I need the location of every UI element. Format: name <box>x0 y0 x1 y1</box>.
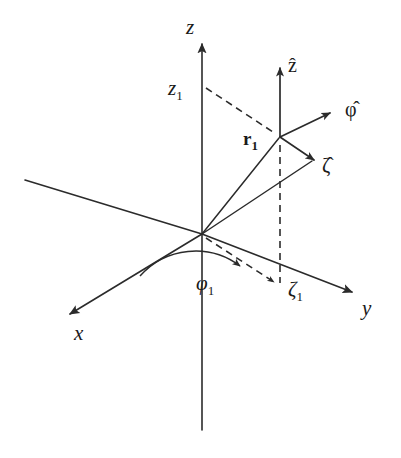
axis-group <box>25 44 352 430</box>
phi-hat-glyph: φ̂ <box>345 98 361 121</box>
phi1-subscript: 1 <box>208 283 215 298</box>
z-axis-label: z <box>185 15 194 39</box>
z1-base: z <box>167 76 176 100</box>
y-axis-label: y <box>360 296 372 320</box>
z1-coordinate-label: z1 <box>167 76 183 103</box>
zeta-direction-ray <box>202 161 312 234</box>
z-hat-glyph: ẑ <box>288 54 297 76</box>
phi-hat-vector <box>280 113 330 137</box>
coordinate-system-diagram: z x y z1 r1 φ1 ζ1 ẑ <box>0 0 401 458</box>
unit-vector-group <box>280 68 330 160</box>
position-vector-ray <box>202 138 279 234</box>
x-axis-label: x <box>73 321 84 345</box>
y-axis-line <box>202 234 352 292</box>
zeta-hat-vector <box>280 137 314 160</box>
phi1-coordinate-label: φ1 <box>196 271 214 298</box>
x-axis-line <box>70 234 202 314</box>
label-group: z x y z1 r1 φ1 ζ1 ẑ <box>73 15 372 345</box>
zeta-hat-label: ζ̂ <box>322 154 334 177</box>
zeta1-coordinate-label: ζ1 <box>288 277 303 304</box>
zeta1-subscript: 1 <box>297 289 304 304</box>
zeta-hat-glyph: ζ̂ <box>322 154 334 177</box>
phi1-angle-arc <box>140 251 240 276</box>
phi1-base: φ <box>196 271 208 295</box>
figure-container: z x y z1 r1 φ1 ζ1 ẑ <box>0 0 401 458</box>
r1-subscript: 1 <box>251 138 258 153</box>
phi-hat-label: φ̂ <box>345 98 361 121</box>
z1-projection-dashed-line <box>206 88 276 134</box>
z1-subscript: 1 <box>176 88 183 103</box>
zeta1-radial-dashed-line <box>206 238 274 282</box>
z-hat-label: ẑ <box>288 54 297 76</box>
position-vector-label: r1 <box>243 128 258 153</box>
construction-group <box>140 88 280 283</box>
y-axis-negative-segment <box>25 180 202 234</box>
